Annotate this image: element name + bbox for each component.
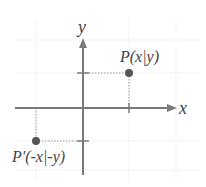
x-axis-label: x [178,98,187,118]
point-p-prime-label: P'(-x|-y) [11,148,65,166]
point-p-label: P(x|y) [119,48,159,66]
diagram-canvas: x y P(x|y) P'(-x|-y) [0,0,206,187]
coordinate-diagram: x y P(x|y) P'(-x|-y) [0,0,206,187]
point-p-prime [32,137,40,145]
y-axis [79,38,87,175]
point-p [125,69,133,77]
y-axis-label: y [76,17,86,37]
x-axis [15,104,177,112]
